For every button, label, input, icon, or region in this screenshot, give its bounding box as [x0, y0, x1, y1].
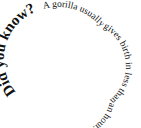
- spiral-text-graphic: Did you know? A gorilla usually gives bi…: [0, 0, 141, 128]
- spiral-fact: A gorilla usually gives birth in less th…: [42, 0, 134, 128]
- spiral-text: Did you know? A gorilla usually gives bi…: [0, 0, 134, 128]
- spiral-heading: Did you know?: [0, 0, 37, 100]
